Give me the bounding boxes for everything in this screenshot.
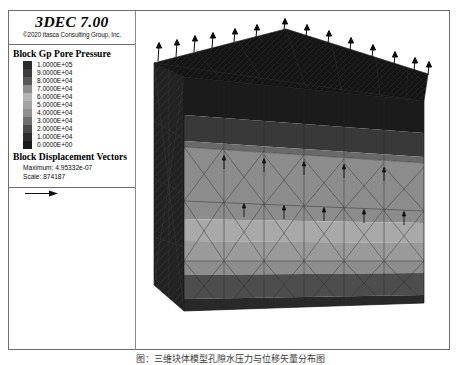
contour-swatch xyxy=(23,93,32,101)
contour-level-row: 1.0000E+05 xyxy=(13,61,135,69)
title-block: 3DEC 7.00 ©2020 Itasca Consulting Group,… xyxy=(9,11,135,45)
contour-label: 1.0000E+05 xyxy=(37,61,72,69)
plot-frame: 3DEC 7.00 ©2020 Itasca Consulting Group,… xyxy=(8,10,450,350)
contour-swatch xyxy=(23,133,32,141)
contour-level-row: 6.0000E+04 xyxy=(13,93,135,101)
displacement-legend-heading: Block Displacement Vectors xyxy=(13,151,135,163)
contour-swatch xyxy=(23,109,32,117)
vector-scale-value: Scale: 874187 xyxy=(23,172,135,181)
contour-level-row: 7.0000E+04 xyxy=(13,85,135,93)
contour-label: 8.0000E+04 xyxy=(37,77,72,85)
contour-label: 6.0000E+04 xyxy=(37,93,72,101)
block-model-render xyxy=(136,11,450,350)
contour-label: 2.0000E+04 xyxy=(37,125,72,133)
contour-swatch xyxy=(23,125,32,133)
contour-level-row: 5.0000E+04 xyxy=(13,101,135,109)
contour-swatch xyxy=(23,77,32,85)
model-front-face xyxy=(184,71,424,315)
contour-label: 1.0000E+04 xyxy=(37,133,72,141)
contour-swatch xyxy=(23,101,32,109)
contour-swatch xyxy=(23,141,32,149)
contour-level-row: 9.0000E+04 xyxy=(13,69,135,77)
displacement-vector-legend: Block Displacement Vectors Maximum: 4.95… xyxy=(13,151,135,201)
contour-label: 7.0000E+04 xyxy=(37,85,72,93)
contour-swatch xyxy=(23,69,32,77)
vector-maximum-value: Maximum: 4.95332e-07 xyxy=(23,163,135,172)
contour-level-row: 0.0000E+00 xyxy=(13,141,135,149)
copyright-notice: ©2020 Itasca Consulting Group, Inc. xyxy=(9,30,135,39)
contour-swatch xyxy=(23,85,32,93)
app-title: 3DEC 7.00 xyxy=(9,13,135,30)
contour-swatch xyxy=(23,117,32,125)
contour-label: 0.0000E+00 xyxy=(37,141,72,149)
pore-pressure-colorbar: 1.0000E+059.0000E+048.0000E+047.0000E+04… xyxy=(13,61,135,149)
contour-label: 9.0000E+04 xyxy=(37,69,72,77)
contour-level-row: 1.0000E+04 xyxy=(13,133,135,141)
model-view[interactable] xyxy=(136,11,450,350)
scale-arrow-icon xyxy=(25,183,135,201)
contour-level-row: 4.0000E+04 xyxy=(13,109,135,117)
pore-pressure-legend-heading: Block Gp Pore Pressure xyxy=(13,48,135,60)
figure-caption: 图：三维块体模型孔隙水压力与位移矢量分布图 xyxy=(0,352,461,365)
contour-label: 3.0000E+04 xyxy=(37,117,72,125)
contour-level-row: 2.0000E+04 xyxy=(13,125,135,133)
contour-swatch xyxy=(23,61,32,69)
contour-label: 4.0000E+04 xyxy=(37,109,72,117)
legend-panel: Block Gp Pore Pressure 1.0000E+059.0000E… xyxy=(9,45,135,188)
contour-level-row: 8.0000E+04 xyxy=(13,77,135,85)
contour-level-row: 3.0000E+04 xyxy=(13,117,135,125)
contour-label: 5.0000E+04 xyxy=(37,101,72,109)
